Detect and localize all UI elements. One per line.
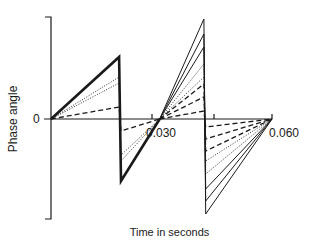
series-line-solid-c2-3 — [160, 47, 272, 189]
phase-angle-chart — [0, 0, 315, 242]
series-line-dashed-c2-1 — [160, 84, 272, 151]
x-tick-060: 0.060 — [269, 126, 299, 140]
y-axis-label: Phase angle — [6, 86, 20, 153]
series-line-solid-c2-2 — [160, 34, 272, 201]
x-axis-label: Time in seconds — [0, 226, 315, 238]
y-tick-zero: 0 — [33, 112, 40, 126]
y-axis — [45, 17, 51, 219]
plot-lines — [51, 19, 272, 214]
x-tick-030: 0.030 — [146, 126, 176, 140]
